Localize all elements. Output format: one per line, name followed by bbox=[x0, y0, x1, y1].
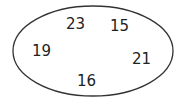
number-19: 19 bbox=[32, 44, 51, 59]
number-21: 21 bbox=[132, 52, 151, 67]
number-15: 15 bbox=[110, 19, 129, 34]
number-16: 16 bbox=[77, 74, 96, 89]
number-23: 23 bbox=[66, 17, 85, 32]
